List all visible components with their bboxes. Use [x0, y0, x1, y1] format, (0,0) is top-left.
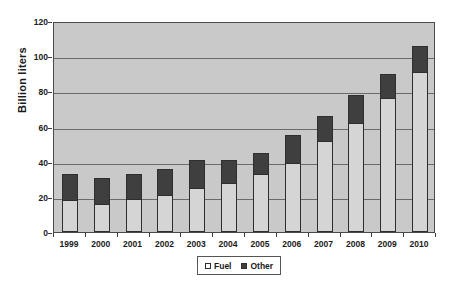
y-axis-tick-mark — [48, 233, 52, 234]
x-axis-tick-label: 2002 — [155, 239, 174, 249]
legend-swatch-other-icon — [241, 263, 247, 269]
bar-segment-fuel — [348, 123, 364, 232]
bar-segment-other — [380, 74, 396, 99]
x-axis-tick-label: 2004 — [219, 239, 238, 249]
bar-segment-fuel — [317, 141, 333, 232]
x-axis-tick-label: 2001 — [123, 239, 142, 249]
bar-group — [380, 74, 396, 232]
x-axis-tick-label: 2006 — [282, 239, 301, 249]
x-axis-tick-label: 2008 — [346, 239, 365, 249]
legend-swatch-fuel-icon — [205, 263, 211, 269]
bar-group — [253, 153, 269, 232]
stacked-bar-chart: Billion liters 020406080100120 199920002… — [0, 0, 464, 284]
y-axis-tick-label: 120 — [18, 17, 48, 27]
legend-label-other: Other — [250, 261, 273, 271]
bar-segment-other — [94, 178, 110, 204]
x-axis-tick-mark — [244, 233, 245, 237]
y-axis-tick-label: 60 — [18, 123, 48, 133]
bar-segment-other — [317, 116, 333, 141]
bar-segment-fuel — [412, 72, 428, 232]
bar-segment-fuel — [253, 174, 269, 232]
bar-group — [126, 174, 142, 232]
y-axis-tick-mark — [48, 22, 52, 23]
y-axis-tick-mark — [48, 198, 52, 199]
x-axis-tick-mark — [276, 233, 277, 237]
x-axis-tick-mark — [149, 233, 150, 237]
bar-segment-fuel — [62, 200, 78, 232]
bar-segment-other — [221, 160, 237, 183]
y-axis-tick-mark — [48, 57, 52, 58]
x-axis-tick-label: 1999 — [59, 239, 78, 249]
bar-segment-other — [348, 95, 364, 123]
bar-segment-other — [253, 153, 269, 174]
plot-area — [53, 22, 435, 233]
x-axis-tick-mark — [308, 233, 309, 237]
bar-segment-fuel — [189, 188, 205, 232]
bar-segment-fuel — [285, 163, 301, 232]
bar-group — [348, 95, 364, 232]
bars-layer — [54, 23, 434, 232]
bar-segment-other — [62, 174, 78, 200]
legend-item-other: Other — [241, 261, 273, 271]
bar-segment-other — [412, 46, 428, 72]
bar-segment-fuel — [126, 199, 142, 232]
x-axis-tick-label: 2005 — [250, 239, 269, 249]
x-axis-tick-label: 2000 — [91, 239, 110, 249]
y-axis-tick-mark — [48, 92, 52, 93]
x-axis-tick-mark — [85, 233, 86, 237]
y-axis-tick-label: 20 — [18, 193, 48, 203]
y-axis-tick-mark — [48, 128, 52, 129]
x-axis-tick-label: 2010 — [410, 239, 429, 249]
y-axis-tick-label: 0 — [18, 228, 48, 238]
bar-segment-fuel — [380, 98, 396, 232]
y-axis-tick-labels: 020406080100120 — [14, 22, 48, 233]
x-axis-tick-mark — [212, 233, 213, 237]
bar-group — [221, 160, 237, 232]
x-axis-tick-mark — [53, 233, 54, 237]
bar-segment-fuel — [221, 183, 237, 232]
bar-group — [94, 178, 110, 233]
bar-group — [285, 135, 301, 232]
legend-item-fuel: Fuel — [205, 261, 231, 271]
y-axis-tick-label: 80 — [18, 87, 48, 97]
bar-group — [317, 116, 333, 232]
bar-segment-fuel — [94, 204, 110, 232]
x-axis-tick-mark — [117, 233, 118, 237]
x-axis-tick-labels: 1999200020012002200320042005200620072008… — [53, 239, 435, 253]
bar-segment-fuel — [157, 195, 173, 232]
bar-group — [62, 174, 78, 232]
y-axis-tick-label: 40 — [18, 158, 48, 168]
bar-segment-other — [126, 174, 142, 199]
y-axis-tick-mark — [48, 163, 52, 164]
x-axis-tick-mark — [403, 233, 404, 237]
x-axis-tick-mark — [371, 233, 372, 237]
x-axis-tick-mark — [340, 233, 341, 237]
bar-group — [157, 169, 173, 232]
x-axis-tick-mark — [435, 233, 436, 237]
bar-group — [189, 160, 205, 232]
bar-segment-other — [189, 160, 205, 188]
x-axis-tick-label: 2009 — [378, 239, 397, 249]
chart-legend: Fuel Other — [197, 256, 281, 275]
x-axis-tick-mark — [180, 233, 181, 237]
bar-segment-other — [285, 135, 301, 163]
x-axis-tick-label: 2007 — [314, 239, 333, 249]
bar-segment-other — [157, 169, 173, 195]
legend-label-fuel: Fuel — [214, 261, 231, 271]
x-axis-tick-label: 2003 — [187, 239, 206, 249]
y-axis-tick-label: 100 — [18, 52, 48, 62]
bar-group — [412, 46, 428, 232]
